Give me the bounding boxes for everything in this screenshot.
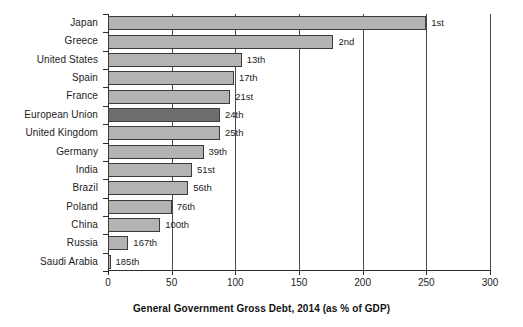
y-axis-label-china: China (71, 216, 98, 234)
bar-european-union (108, 108, 220, 122)
bar-rank-label-spain: 17th (239, 71, 258, 85)
y-axis-label-saudi-arabia: Saudi Arabia (40, 253, 98, 271)
bar-rank-label-brazil: 56th (193, 181, 212, 195)
bar-rank-label-germany: 39th (209, 145, 228, 159)
x-tick-mark-250 (426, 271, 427, 275)
bar-united-kingdom (108, 126, 220, 140)
y-axis-label-greece: Greece (65, 32, 98, 50)
bar-rank-label-saudi-arabia: 185th (116, 255, 140, 269)
x-tick-label-150: 150 (291, 277, 308, 288)
bar-rank-label-united-states: 13th (247, 53, 266, 67)
x-tick-label-100: 100 (227, 277, 244, 288)
y-axis-label-united-states: United States (37, 51, 98, 69)
x-tick-label-0: 0 (105, 277, 111, 288)
bar-spain (108, 71, 234, 85)
bar-brazil (108, 181, 188, 195)
bar-rank-label-united-kingdom: 25th (225, 126, 244, 140)
bar-chart: JapanGreeceUnited StatesSpainFranceEurop… (0, 0, 523, 327)
bar-rank-label-greece: 2nd (338, 35, 354, 49)
y-axis-category-labels: JapanGreeceUnited StatesSpainFranceEurop… (0, 14, 104, 271)
bar-saudi-arabia (108, 255, 111, 269)
bar-india (108, 163, 192, 177)
bar-rank-label-india: 51st (197, 163, 215, 177)
bar-rank-label-china: 100th (165, 218, 189, 232)
y-axis-label-brazil: Brazil (72, 179, 98, 197)
bar-russia (108, 236, 128, 250)
gridline-300 (490, 14, 491, 271)
y-axis-label-poland: Poland (66, 198, 98, 216)
y-axis-label-spain: Spain (72, 69, 98, 87)
bar-poland (108, 200, 172, 214)
x-tick-label-250: 250 (418, 277, 435, 288)
bar-rank-label-japan: 1st (431, 16, 444, 30)
y-axis-label-india: India (76, 161, 98, 179)
x-tick-mark-150 (299, 271, 300, 275)
bar-germany (108, 145, 204, 159)
plot-wrapper: JapanGreeceUnited StatesSpainFranceEurop… (0, 0, 523, 327)
bar-china (108, 218, 160, 232)
bar-rank-label-poland: 76th (177, 200, 196, 214)
y-axis-label-russia: Russia (67, 234, 98, 252)
x-tick-label-300: 300 (482, 277, 499, 288)
bar-japan (108, 16, 426, 30)
x-tick-mark-300 (490, 271, 491, 275)
y-axis-label-united-kingdom: United Kingdom (25, 124, 98, 142)
bar-united-states (108, 53, 242, 67)
x-tick-mark-0 (108, 271, 109, 275)
bar-greece (108, 35, 333, 49)
x-axis-title: General Government Gross Debt, 2014 (as … (0, 303, 523, 314)
y-axis-label-france: France (66, 87, 98, 105)
bar-rank-label-european-union: 24th (225, 108, 244, 122)
bar-france (108, 90, 230, 104)
y-axis-label-germany: Germany (56, 143, 98, 161)
x-tick-mark-50 (172, 271, 173, 275)
bar-rank-label-russia: 167th (133, 236, 157, 250)
y-axis-label-european-union: European Union (24, 106, 98, 124)
x-tick-label-50: 50 (166, 277, 177, 288)
x-tick-mark-100 (235, 271, 236, 275)
bar-rank-label-france: 21st (235, 90, 253, 104)
x-tick-label-200: 200 (354, 277, 371, 288)
x-tick-mark-200 (363, 271, 364, 275)
y-axis-label-japan: Japan (70, 14, 98, 32)
